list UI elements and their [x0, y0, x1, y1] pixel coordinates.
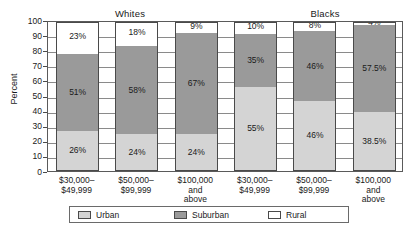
bar-segment-suburban[interactable]: 51%	[57, 54, 98, 131]
bar-segment-rural[interactable]: 23%	[57, 22, 98, 54]
bar-segment-value-label: 9%	[190, 22, 202, 30]
bar-segment-rural[interactable]: 10%	[235, 22, 276, 34]
y-axis-tick-label: 40	[18, 107, 42, 116]
stacked-bar[interactable]: 24%67%9%	[175, 22, 218, 171]
bar-segment-value-label: 24%	[128, 148, 145, 157]
group-title-whites: Whites	[87, 8, 173, 19]
legend-swatch-rural-icon	[268, 211, 281, 219]
bar-segment-urban[interactable]: 55%	[235, 87, 276, 170]
y-axis-tick-label: 100	[18, 17, 42, 26]
bar-segment-urban[interactable]: 24%	[176, 134, 217, 170]
x-axis-category-label: $50,000– $99,999	[106, 176, 165, 195]
legend: Urban Suburban Rural	[69, 206, 349, 223]
y-axis-tick-label: 30	[18, 122, 42, 131]
legend-item-suburban[interactable]: Suburban	[174, 206, 229, 223]
bar-segment-value-label: 51%	[69, 88, 86, 97]
bar-slot: 24%58%18%	[107, 22, 166, 171]
legend-label-urban: Urban	[96, 210, 119, 220]
bar-segment-value-label: 23%	[69, 32, 86, 41]
bar-segment-suburban[interactable]: 57.5%	[354, 25, 395, 112]
bar-segment-value-label: 46%	[306, 62, 323, 71]
x-axis-category-label: $50,000– $99,999	[284, 176, 343, 195]
bar-segment-value-label: 58%	[128, 86, 145, 95]
bar-segment-value-label: 67%	[188, 79, 205, 88]
bar-segment-value-label: 10%	[247, 22, 264, 31]
bar-segment-suburban[interactable]: 46%	[294, 31, 335, 100]
bar-segment-urban[interactable]: 46%	[294, 101, 335, 170]
bar-slot: 24%67%9%	[167, 22, 226, 171]
legend-label-rural: Rural	[286, 210, 306, 220]
bar-segment-value-label: 35%	[247, 56, 264, 65]
y-axis-tick-label: 50	[18, 92, 42, 101]
x-axis-category-label: $100,000 and above	[166, 176, 225, 205]
bar-slot: 55%35%10%	[226, 22, 285, 171]
bar-segment-suburban[interactable]: 67%	[176, 33, 217, 134]
bar-segment-rural[interactable]: 8%	[294, 22, 335, 31]
y-axis-tick-label: 60	[18, 77, 42, 86]
stacked-bar[interactable]: 55%35%10%	[234, 22, 277, 171]
y-axis-tick-label: 0	[18, 168, 42, 177]
bar-segment-value-label: 4%	[368, 22, 380, 26]
bar-segment-rural[interactable]: 18%	[116, 22, 157, 46]
y-axis-tick-label: 70	[18, 62, 42, 71]
y-axis-tick-label: 80	[18, 47, 42, 56]
legend-item-rural[interactable]: Rural	[268, 206, 306, 223]
y-axis-tick-label: 90	[18, 32, 42, 41]
stacked-bar[interactable]: 26%51%23%	[56, 22, 99, 171]
stacked-bar[interactable]: 38.5%57.5%4%	[353, 22, 396, 171]
plot-area: 26%51%23%24%58%18%24%67%9%55%35%10%46%46…	[47, 21, 403, 172]
bar-segment-value-label: 26%	[69, 146, 86, 155]
bar-segment-value-label: 46%	[306, 131, 323, 140]
legend-swatch-suburban-icon	[174, 211, 187, 219]
bar-segment-value-label: 57.5%	[362, 64, 386, 73]
legend-swatch-urban-icon	[78, 211, 91, 219]
bar-segment-value-label: 38.5%	[362, 137, 386, 146]
group-title-blacks: Blacks	[282, 8, 368, 19]
bar-segment-rural[interactable]: 9%	[176, 22, 217, 33]
bar-segment-urban[interactable]: 26%	[57, 131, 98, 170]
bar-segment-value-label: 24%	[188, 148, 205, 157]
x-axis-category-label: $30,000– $49,999	[225, 176, 284, 195]
legend-label-suburban: Suburban	[192, 210, 229, 220]
bar-segment-value-label: 55%	[247, 124, 264, 133]
y-axis-tick-label: 10	[18, 152, 42, 161]
bar-slot: 46%46%8%	[285, 22, 344, 171]
bar-segment-urban[interactable]: 38.5%	[354, 112, 395, 170]
y-axis-tick-mark	[43, 172, 47, 173]
bar-segment-suburban[interactable]: 35%	[235, 34, 276, 87]
stacked-bar-chart: Whites Blacks Percent 100908070605040302…	[0, 0, 417, 230]
bar-slot: 38.5%57.5%4%	[345, 22, 404, 171]
x-axis-category-label: $100,000 and above	[344, 176, 403, 205]
y-axis-tick-label: 20	[18, 137, 42, 146]
bar-segment-value-label: 18%	[128, 28, 145, 37]
legend-item-urban[interactable]: Urban	[78, 206, 119, 223]
y-axis-tick-labels: 1009080706050403020100	[18, 0, 42, 230]
x-axis-category-label: $30,000– $49,999	[47, 176, 106, 195]
bar-segment-rural[interactable]: 4%	[354, 22, 395, 25]
bar-slot: 26%51%23%	[48, 22, 107, 171]
stacked-bar[interactable]: 46%46%8%	[293, 22, 336, 171]
bar-segment-suburban[interactable]: 58%	[116, 46, 157, 134]
stacked-bar[interactable]: 24%58%18%	[115, 22, 158, 171]
bar-segment-value-label: 8%	[309, 22, 321, 29]
bar-segment-urban[interactable]: 24%	[116, 134, 157, 170]
